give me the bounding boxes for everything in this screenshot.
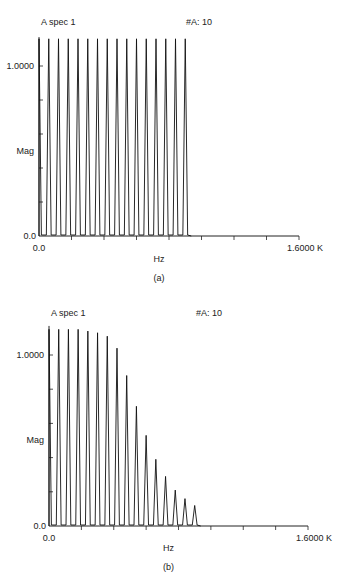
chart-a-x-tick-label-min: 0.0 (33, 243, 46, 253)
chart-b-caption: (b) (163, 562, 174, 572)
chart-a-caption: (a) (154, 273, 165, 283)
chart-b-title: A spec 1 (51, 308, 86, 318)
chart-a-x-tick-label-max: 1.6000 K (287, 243, 323, 253)
chart-b-x-tick-label-max: 1.6000 K (296, 533, 332, 543)
chart-a-spectrum-trace (39, 39, 191, 236)
chart-a-y-tick-label-max: 1.0000 (6, 61, 34, 71)
spectrum-figure: A spec 1#A: 100.01.00000.01.6000 KMagHz(… (0, 0, 348, 583)
chart-b-x-tick-label-min: 0.0 (43, 533, 56, 543)
chart-a-y-axis-label: Mag (16, 146, 34, 156)
chart-b-spectrum-trace (49, 329, 201, 526)
chart-a-annotation: #A: 10 (186, 17, 212, 27)
chart-b-y-axis-label: Mag (26, 435, 44, 445)
chart-b-y-tick-label-min: 0.0 (33, 521, 46, 531)
chart-b-annotation: #A: 10 (196, 308, 222, 318)
chart-a-title: A spec 1 (41, 17, 76, 27)
chart-b-x-axis-label: Hz (163, 543, 174, 553)
chart-b-y-tick-label-max: 1.0000 (16, 350, 44, 360)
chart-a-x-axis-label: Hz (154, 254, 165, 264)
chart-a-y-tick-label-min: 0.0 (23, 231, 36, 241)
